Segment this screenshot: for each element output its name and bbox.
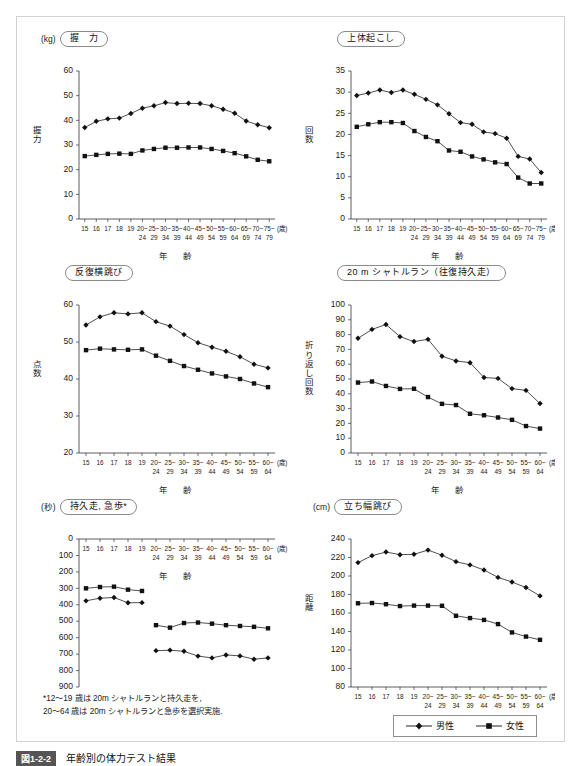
caption-number: 図1-2-2 [16, 751, 56, 766]
svg-text:20~: 20~ [423, 459, 434, 466]
svg-text:30: 30 [336, 403, 346, 413]
svg-text:70~: 70~ [252, 225, 263, 232]
svg-text:24: 24 [152, 554, 160, 561]
svg-text:500: 500 [59, 615, 73, 625]
svg-text:49: 49 [222, 554, 230, 561]
chart-plot-sit-ups: 05101520253035151617181920~2425~2930~343… [295, 41, 555, 253]
svg-text:70~: 70~ [524, 225, 535, 232]
svg-text:55~: 55~ [490, 225, 501, 232]
chart-plot-standing-long-jump: 80100120140160180200220240151617181920~2… [295, 509, 555, 721]
svg-text:65~: 65~ [513, 225, 524, 232]
svg-text:17: 17 [382, 693, 390, 700]
footnote-text: *12～19 歳は 20m シャトルランと持久走を, 20～64 歳は 20m … [43, 693, 222, 718]
svg-text:60: 60 [336, 358, 346, 368]
svg-text:50: 50 [336, 373, 346, 383]
svg-text:45~: 45~ [221, 545, 232, 552]
svg-text:(歳): (歳) [277, 224, 287, 233]
svg-text:39: 39 [173, 234, 181, 241]
svg-text:55~: 55~ [521, 693, 532, 700]
svg-text:45~: 45~ [221, 459, 232, 466]
svg-text:35~: 35~ [465, 693, 476, 700]
svg-text:(歳): (歳) [549, 692, 555, 701]
svg-text:44: 44 [480, 468, 488, 475]
svg-text:30~: 30~ [451, 693, 462, 700]
svg-text:40~: 40~ [207, 545, 218, 552]
svg-text:700: 700 [59, 648, 73, 658]
svg-text:74: 74 [254, 234, 262, 241]
svg-text:24: 24 [139, 234, 147, 241]
svg-text:(歳): (歳) [549, 224, 555, 233]
svg-text:44: 44 [208, 468, 216, 475]
svg-text:25~: 25~ [437, 459, 448, 466]
svg-text:45~: 45~ [195, 225, 206, 232]
svg-text:19: 19 [138, 545, 146, 552]
svg-text:59: 59 [522, 702, 530, 709]
svg-text:40~: 40~ [479, 693, 490, 700]
svg-text:34: 34 [434, 234, 442, 241]
svg-text:55~: 55~ [249, 545, 260, 552]
svg-text:29: 29 [422, 234, 430, 241]
chart-xlabel-side-steps: 年 齢 [79, 483, 275, 495]
svg-text:17: 17 [104, 225, 112, 232]
svg-text:24: 24 [424, 468, 432, 475]
svg-text:60~: 60~ [501, 225, 512, 232]
svg-text:30: 30 [64, 410, 74, 420]
svg-text:49: 49 [469, 234, 477, 241]
chart-xlabel-shuttle-run: 年 齢 [351, 483, 547, 495]
svg-text:20: 20 [64, 447, 74, 457]
svg-text:240: 240 [331, 533, 345, 543]
svg-text:0: 0 [68, 533, 73, 543]
svg-text:29: 29 [438, 702, 446, 709]
svg-text:50~: 50~ [206, 225, 217, 232]
svg-text:40~: 40~ [183, 225, 194, 232]
svg-text:20: 20 [64, 164, 74, 174]
plot-area-endurance-run-walk: 0100200300400500600700800900151617181920… [23, 509, 289, 721]
svg-text:29: 29 [166, 468, 174, 475]
svg-text:54: 54 [208, 234, 216, 241]
svg-text:60~: 60~ [263, 545, 274, 552]
svg-text:54: 54 [508, 702, 516, 709]
svg-text:19: 19 [399, 225, 407, 232]
svg-text:64: 64 [503, 234, 511, 241]
svg-text:59: 59 [522, 468, 530, 475]
svg-text:300: 300 [59, 583, 73, 593]
caption-text: 年齢別の体力テスト結果 [66, 750, 176, 765]
svg-text:10: 10 [64, 189, 74, 199]
svg-text:75~: 75~ [264, 225, 275, 232]
legend-item-male: 男性 [406, 719, 454, 732]
svg-text:400: 400 [59, 599, 73, 609]
chart-panel-sit-ups: 上体起こし回数05101520253035151617181920~2425~2… [295, 31, 561, 267]
svg-text:34: 34 [180, 554, 188, 561]
chart-plot-grip-strength: 0102030405060151617181920~2425~2930~3435… [23, 41, 289, 253]
svg-text:35: 35 [336, 65, 346, 75]
svg-text:59: 59 [250, 554, 258, 561]
svg-text:17: 17 [110, 545, 118, 552]
svg-text:49: 49 [494, 468, 502, 475]
svg-text:40~: 40~ [455, 225, 466, 232]
svg-text:45~: 45~ [493, 459, 504, 466]
svg-text:35~: 35~ [193, 545, 204, 552]
svg-text:35~: 35~ [465, 459, 476, 466]
svg-text:25~: 25~ [437, 693, 448, 700]
svg-text:50: 50 [64, 336, 74, 346]
svg-text:800: 800 [59, 665, 73, 675]
legend-item-female: 女性 [476, 719, 524, 732]
svg-text:16: 16 [93, 225, 101, 232]
svg-text:60: 60 [64, 65, 74, 75]
svg-text:64: 64 [264, 468, 272, 475]
svg-text:50~: 50~ [478, 225, 489, 232]
figure-frame: (kg)握 力握力0102030405060151617181920~2425~… [16, 16, 565, 742]
svg-text:100: 100 [59, 550, 73, 560]
svg-text:100: 100 [331, 299, 345, 309]
svg-text:30: 30 [64, 139, 74, 149]
svg-text:16: 16 [96, 545, 104, 552]
svg-text:25~: 25~ [149, 225, 160, 232]
svg-text:140: 140 [331, 626, 345, 636]
svg-text:25: 25 [336, 108, 346, 118]
svg-text:40: 40 [336, 388, 346, 398]
legend-label-male: 男性 [436, 719, 454, 732]
svg-text:18: 18 [388, 225, 396, 232]
svg-text:15: 15 [82, 459, 90, 466]
svg-text:44: 44 [185, 234, 193, 241]
svg-text:50~: 50~ [507, 693, 518, 700]
